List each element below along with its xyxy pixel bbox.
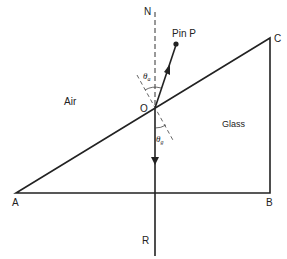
label-r: R <box>142 235 149 246</box>
label-glass: Glass <box>222 119 246 129</box>
label-a: A <box>12 197 19 208</box>
theta-a-arc <box>145 87 161 90</box>
refracted-arrow-icon <box>151 157 159 165</box>
label-pin-p: Pin P <box>172 28 196 39</box>
label-air: Air <box>64 96 77 107</box>
incident-ray <box>155 45 176 108</box>
label-c: C <box>274 33 281 44</box>
label-o: O <box>140 103 148 114</box>
label-theta-g: θg <box>156 134 163 145</box>
pin-p-dot <box>173 41 178 46</box>
label-b: B <box>266 197 273 208</box>
refraction-diagram: N Pin P O A B C R Air Glass θa θg <box>0 0 287 259</box>
glass-prism-triangle <box>16 38 270 193</box>
label-n: N <box>144 6 151 17</box>
label-theta-a: θa <box>143 71 150 82</box>
incident-arrow-icon <box>164 64 170 75</box>
